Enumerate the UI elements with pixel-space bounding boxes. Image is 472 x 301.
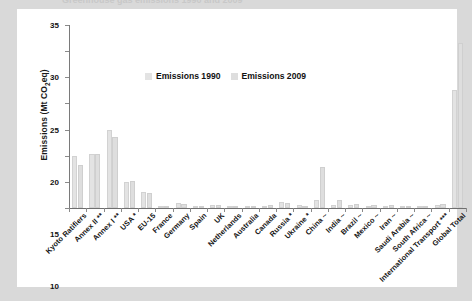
chart-card: Emissions (Mt CO2eq) Emissions 1990Emiss… [17, 9, 457, 287]
bar [302, 206, 307, 208]
bar-group [279, 25, 290, 208]
bar-group [331, 25, 342, 208]
x-tick [397, 208, 398, 212]
y-tick-label: 20 [50, 177, 59, 186]
bar [285, 203, 290, 208]
bar-group [452, 25, 463, 208]
y-tick-label: 10 [50, 282, 59, 291]
bar [314, 200, 319, 208]
x-tick [69, 208, 70, 212]
plot-area: 05101520253035 Kyoto RatifiersAnnex II *… [69, 25, 466, 208]
bar [233, 206, 238, 208]
bar-group [227, 25, 238, 208]
bar [199, 206, 204, 208]
x-axis-label: Spain [188, 211, 209, 232]
bar [417, 206, 422, 208]
y-axis-line [69, 25, 70, 208]
bar [452, 90, 457, 208]
y-tick: 35 [65, 25, 69, 26]
bar [400, 206, 405, 208]
bar [297, 205, 302, 208]
x-tick [362, 208, 363, 212]
bar-group [107, 25, 118, 208]
bar-group [348, 25, 359, 208]
bar-group [435, 25, 446, 208]
bar [193, 206, 198, 208]
bar [112, 137, 117, 208]
bar [279, 202, 284, 208]
bar [181, 204, 186, 208]
bar [245, 206, 250, 208]
x-tick [86, 208, 87, 212]
bar-group [245, 25, 256, 208]
bar [158, 206, 163, 208]
x-tick [431, 208, 432, 212]
bar-group [210, 25, 221, 208]
x-axis-line [69, 208, 466, 209]
y-tick: 10 [65, 156, 69, 157]
bar [141, 192, 146, 208]
y-tick-label: 30 [50, 73, 59, 82]
bar [107, 130, 112, 208]
bar [262, 206, 267, 208]
bar [458, 43, 463, 208]
bar [147, 193, 152, 208]
bar [72, 156, 77, 208]
y-axis-title: Emissions (Mt CO2eq) [39, 40, 51, 190]
x-tick [311, 208, 312, 212]
x-tick [121, 208, 122, 212]
x-tick [155, 208, 156, 212]
x-tick [138, 208, 139, 212]
x-tick [259, 208, 260, 212]
bar [130, 181, 135, 208]
bar-group [193, 25, 204, 208]
bar [337, 200, 342, 208]
y-tick-label: 25 [50, 125, 59, 134]
bar [440, 204, 445, 208]
bar [227, 206, 232, 208]
y-tick: 30 [65, 51, 69, 52]
x-tick [380, 208, 381, 212]
y-tick: 25 [65, 77, 69, 78]
bar [124, 182, 129, 208]
bar [268, 205, 273, 208]
x-tick [173, 208, 174, 212]
bar-group [400, 25, 411, 208]
x-tick [242, 208, 243, 212]
bar [406, 206, 411, 208]
y-tick: 20 [65, 103, 69, 104]
x-tick [345, 208, 346, 212]
x-tick [224, 208, 225, 212]
bar [164, 206, 169, 208]
bar-group [141, 25, 152, 208]
bar [354, 204, 359, 208]
bar-group [383, 25, 394, 208]
bar [383, 206, 388, 208]
bar [89, 154, 94, 208]
cropped-title-strip: Greenhouse gas emissions 1990 and 2009 [0, 0, 472, 9]
bar [95, 154, 100, 208]
y-tick-label: 35 [50, 21, 59, 30]
bar-group [417, 25, 428, 208]
bar-group [72, 25, 83, 208]
y-tick: 15 [65, 130, 69, 131]
bar [366, 206, 371, 208]
x-tick [449, 208, 450, 212]
x-tick [414, 208, 415, 212]
x-axis-label: USA * [119, 211, 140, 232]
bar [389, 205, 394, 208]
bar-group [124, 25, 135, 208]
x-tick [466, 208, 467, 212]
bar [435, 205, 440, 208]
bar [348, 205, 353, 208]
bar-group [314, 25, 325, 208]
x-tick [190, 208, 191, 212]
bar [216, 205, 221, 208]
cropped-title-text: Greenhouse gas emissions 1990 and 2009 [62, 0, 243, 5]
x-tick [104, 208, 105, 212]
screenshot-root: Greenhouse gas emissions 1990 and 2009 E… [0, 0, 472, 301]
bar-group [89, 25, 100, 208]
x-tick [207, 208, 208, 212]
x-tick [276, 208, 277, 212]
bar [331, 205, 336, 208]
